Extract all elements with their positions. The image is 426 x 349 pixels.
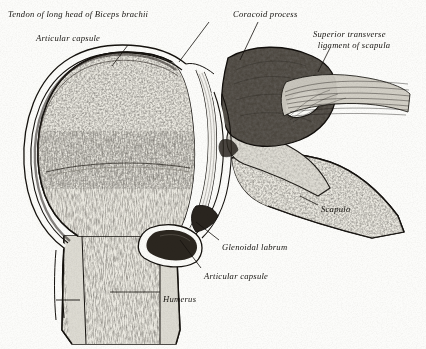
label-coracoid-process: Coracoid process [233, 9, 298, 20]
label-articular-capsule-lower: Articular capsule [204, 271, 268, 282]
anatomical-plate: Tendon of long head of Biceps brachii Ar… [0, 0, 426, 349]
label-superior-transverse-ligament: Superior transverse ligament of scapula [313, 29, 390, 50]
label-humerus: Humerus [163, 294, 196, 305]
shoulder-joint-illustration [0, 0, 426, 349]
inferior-recess [138, 225, 202, 267]
label-scapula: Scapula [321, 204, 350, 215]
label-articular-capsule-top: Articular capsule [36, 33, 100, 44]
label-glenoidal-labrum: Glenoidal labrum [222, 242, 287, 253]
label-tendon-biceps: Tendon of long head of Biceps brachii [8, 9, 148, 20]
